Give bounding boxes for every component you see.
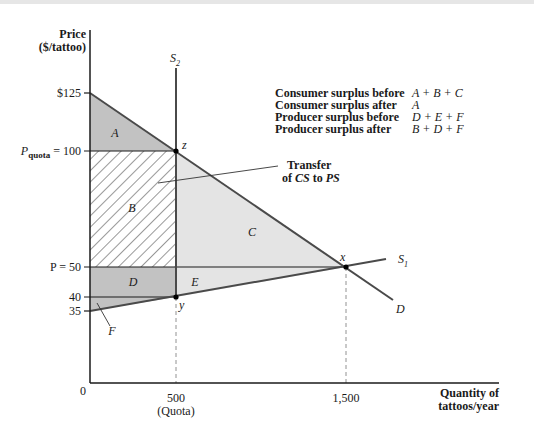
- tick-35: 35: [69, 304, 81, 318]
- transfer-label-line2: of CS to PS: [282, 171, 340, 185]
- s2-label: S2: [170, 51, 180, 68]
- region-f-label: F: [107, 324, 116, 338]
- point-z: [173, 148, 178, 153]
- region-e-label: E: [190, 275, 199, 289]
- tick-1500: 1,500: [333, 391, 360, 405]
- point-x: [343, 264, 348, 269]
- point-y-label: y: [178, 298, 185, 312]
- tick-125: $125: [57, 86, 81, 100]
- legend-row: Producer surplus after B + D + F: [275, 123, 464, 135]
- tick-500-note: (Quota): [157, 404, 194, 418]
- legend-value: B + D + F: [412, 123, 464, 135]
- x-axis-label-line2: tattoos/year: [438, 399, 499, 413]
- s1-label: S1: [398, 252, 408, 269]
- point-y: [173, 294, 178, 299]
- region-c-label: C: [248, 225, 257, 239]
- tick-p-quota: Pquota = 100: [20, 144, 81, 160]
- d-label: D: [395, 302, 405, 316]
- legend-value: A + B + C: [412, 87, 463, 99]
- point-z-label: z: [181, 138, 187, 152]
- region-b-label: B: [128, 201, 136, 215]
- quota-surplus-diagram: Price ($/tattoo) Quantity of tattoos/yea…: [0, 0, 534, 430]
- tick-500: 500: [167, 391, 185, 405]
- tick-40: 40: [69, 290, 81, 304]
- transfer-label-line1: Transfer: [287, 158, 332, 172]
- region-a-label: A: [110, 126, 119, 140]
- legend-label: Producer surplus after: [275, 123, 412, 135]
- tick-p50: P = 50: [50, 260, 81, 274]
- surplus-legend: Consumer surplus before A + B + C Consum…: [275, 87, 464, 135]
- region-d-label: D: [128, 275, 138, 289]
- point-x-label: x: [339, 250, 346, 264]
- origin-label: 0: [80, 384, 86, 398]
- x-axis-label-line1: Quantity of: [440, 386, 500, 400]
- y-axis-label-line1: Price: [59, 27, 86, 41]
- y-axis-label-line2: ($/tattoo): [39, 40, 86, 54]
